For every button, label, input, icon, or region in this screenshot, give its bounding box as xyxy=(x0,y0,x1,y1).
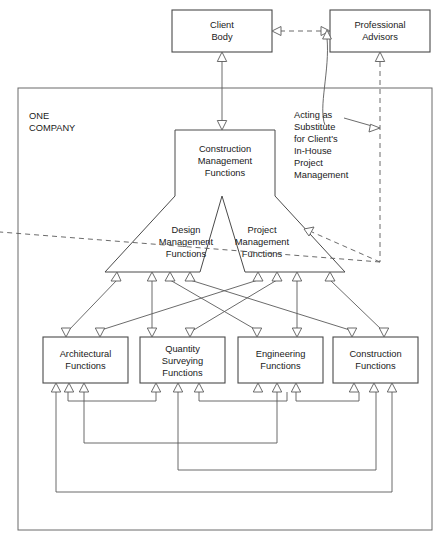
arrowhead-pentagon-base-7 xyxy=(292,272,301,281)
arrowhead-bottom-quantity-3 xyxy=(194,383,203,392)
construction-functions-box[interactable] xyxy=(333,337,418,383)
arrowhead-bottom-construction-1 xyxy=(349,383,358,392)
arrowhead-top-engineering-2 xyxy=(292,328,301,337)
annotation-line-5: Project xyxy=(294,158,323,168)
arrowhead-top-quantity-1 xyxy=(147,328,156,337)
arrowhead-top-engineering-1 xyxy=(252,328,261,337)
route-architectural-to-construction-deepest xyxy=(56,392,392,492)
arrowhead-up-to-professional-advisors xyxy=(375,52,384,62)
design-management-label-line1: Design xyxy=(172,225,201,235)
engineering-functions-label-line2: Functions xyxy=(260,361,301,371)
arrowhead-into-pentagon-right xyxy=(304,227,314,236)
arrowhead-bottom-quantity-2 xyxy=(173,383,182,392)
arrowhead-top-quantity-2 xyxy=(185,328,194,337)
quantity-surveying-functions-label-line1: Quantity xyxy=(165,344,200,354)
design-management-label-line3: Functions xyxy=(166,249,207,259)
one-company-label-line2: COMPANY xyxy=(29,123,75,133)
arrowhead-bottom-architectural-2 xyxy=(64,383,73,392)
annotation-line-4: In-House xyxy=(294,146,332,156)
construction-functions-label-line2: Functions xyxy=(355,361,396,371)
route-quantity-to-engineering-shallow xyxy=(199,392,287,401)
annotation-line-2: Substitute xyxy=(294,122,335,132)
arrowhead-bottom-architectural-3 xyxy=(79,383,88,392)
engineering-functions-box[interactable] xyxy=(238,337,323,383)
arrowhead-top-architectural-2 xyxy=(95,328,104,337)
professional-advisors-label-line1: Professional xyxy=(354,20,405,30)
arrowhead-down-to-construction xyxy=(217,121,226,131)
client-body-label-line1: Client xyxy=(210,20,234,30)
professional-advisors-label-line2: Advisors xyxy=(362,32,398,42)
arrowhead-pentagon-base-6 xyxy=(272,272,282,281)
one-company-frame xyxy=(18,88,432,530)
client-body-box[interactable] xyxy=(172,10,272,52)
arrowhead-pentagon-base-3 xyxy=(165,272,175,281)
arrowhead-pentagon-base-1 xyxy=(111,272,121,281)
arrowhead-pentagon-base-5 xyxy=(253,272,263,281)
connector-design-to-architectural xyxy=(68,280,117,331)
arrowhead-pentagon-base-2 xyxy=(147,272,156,281)
arrowhead-bottom-engineering-2 xyxy=(272,383,281,392)
construction-management-label-line2: Management xyxy=(198,156,253,166)
construction-management-label-line3: Functions xyxy=(205,168,246,178)
arrowhead-bottom-quantity-1 xyxy=(151,383,160,392)
route-architectural-to-quantity-shallow xyxy=(68,392,156,401)
route-architectural-to-engineering-mid xyxy=(84,392,277,443)
arrowhead-bottom-architectural-1 xyxy=(51,383,60,392)
project-management-label-line1: Project xyxy=(248,225,277,235)
architectural-functions-box[interactable] xyxy=(43,337,128,383)
one-company-label-line1: ONE xyxy=(29,111,49,121)
arrowhead-up-to-client-body xyxy=(217,52,226,62)
arrowhead-bottom-engineering-3 xyxy=(291,383,300,392)
design-management-label-line2: Management xyxy=(159,237,214,247)
arrowhead-bottom-construction-3 xyxy=(387,383,396,392)
construction-management-label-line1: Construction xyxy=(199,144,251,154)
arrowhead-bottom-engineering-1 xyxy=(253,383,262,392)
project-management-label-line2: Management xyxy=(235,237,290,247)
client-body-label-line2: Body xyxy=(211,32,233,42)
architectural-functions-label-line1: Architectural xyxy=(60,349,112,359)
architectural-functions-label-line2: Functions xyxy=(65,361,106,371)
arrowhead-top-construction-2 xyxy=(379,328,388,337)
arrowhead-top-architectural-1 xyxy=(61,328,70,337)
route-engineering-to-construction-shallow xyxy=(296,392,359,401)
annotation-line-6: Management xyxy=(294,170,349,180)
arrowhead-pentagon-base-4 xyxy=(185,272,195,281)
arrowhead-pentagon-base-8 xyxy=(325,272,335,281)
arrowhead-annotation-pointer xyxy=(369,124,380,132)
arrowhead-top-construction-1 xyxy=(347,328,356,337)
construction-functions-label-line1: Construction xyxy=(349,349,401,359)
diagram-canvas: ONE COMPANY Client Body Professional Adv… xyxy=(0,0,444,547)
engineering-functions-label-line1: Engineering xyxy=(256,349,306,359)
arrowhead-bottom-construction-2 xyxy=(369,383,378,392)
arrowhead-to-client-body xyxy=(272,27,281,36)
connector-project-to-construction xyxy=(330,280,383,331)
annotation-line-1: Acting as xyxy=(294,110,333,120)
quantity-surveying-functions-label-line2: Surveying xyxy=(162,356,203,366)
connector-annotation-pointer xyxy=(344,118,372,126)
professional-advisors-box[interactable] xyxy=(330,10,430,52)
annotation-line-3: for Client's xyxy=(294,134,338,144)
quantity-surveying-functions-label-line3: Functions xyxy=(162,368,203,378)
